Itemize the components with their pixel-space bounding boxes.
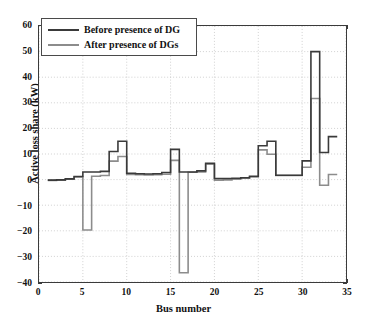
chart-figure: Active loss share (kW) Bus number 605040…: [0, 0, 367, 323]
y-tick--10: −10: [0, 201, 32, 211]
y-tick-50: 50: [0, 46, 32, 56]
x-axis-label: Bus number: [0, 303, 367, 314]
y-tick-0: 0: [0, 175, 32, 185]
y-tickmark: [343, 283, 347, 284]
x-tick-20: 20: [200, 287, 230, 297]
x-tick-5: 5: [67, 287, 97, 297]
legend-label-after: After presence of DGs: [84, 39, 178, 50]
x-tick-15: 15: [155, 287, 185, 297]
y-tick-40: 40: [0, 72, 32, 82]
x-tick-30: 30: [288, 287, 318, 297]
x-tick-35: 35: [332, 287, 362, 297]
x-tick-0: 0: [23, 287, 53, 297]
y-tick-10: 10: [0, 149, 32, 159]
x-tick-10: 10: [111, 287, 141, 297]
y-tick--20: −20: [0, 226, 32, 236]
legend-item-after: After presence of DGs: [46, 37, 192, 52]
y-tick-20: 20: [0, 123, 32, 133]
legend-label-before: Before presence of DG: [84, 24, 180, 35]
y-tick-30: 30: [0, 97, 32, 107]
x-tickmark: [347, 279, 348, 283]
series-line: [48, 98, 337, 272]
legend-swatch-before: [48, 29, 79, 31]
plot-area: [38, 25, 347, 283]
y-tickmark: [38, 283, 42, 284]
x-tick-25: 25: [244, 287, 274, 297]
legend-swatch-after: [48, 44, 79, 46]
legend-item-before: Before presence of DG: [46, 22, 192, 37]
y-tick--30: −30: [0, 252, 32, 262]
data-series-lines: [39, 26, 346, 282]
x-tickmark: [347, 25, 348, 29]
series-line: [48, 52, 337, 181]
y-tick-60: 60: [0, 20, 32, 30]
chart-legend: Before presence of DG After presence of …: [41, 18, 197, 56]
